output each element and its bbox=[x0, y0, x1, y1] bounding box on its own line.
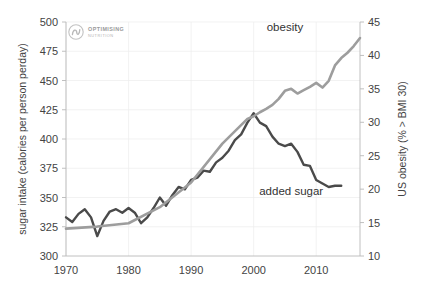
y2-axis-tick-label: 30 bbox=[368, 116, 380, 128]
y-axis-tick-label: 500 bbox=[40, 16, 58, 28]
logo-text-secondary: NUTRITION bbox=[88, 33, 114, 38]
y2-axis-tick-label: 35 bbox=[368, 83, 380, 95]
y2-axis-tick-label: 40 bbox=[368, 49, 380, 61]
y-axis-tick-label: 375 bbox=[40, 162, 58, 174]
logo-text-primary: OPTIMISING bbox=[88, 26, 124, 32]
x-axis-tick-label: 1970 bbox=[54, 264, 78, 276]
y-axis-tick-label: 350 bbox=[40, 192, 58, 204]
y2-axis-tick-label: 15 bbox=[368, 217, 380, 229]
series-label-added-sugar: added sugar bbox=[259, 185, 323, 197]
y2-axis-tick-label: 45 bbox=[368, 16, 380, 28]
x-axis-tick-label: 2000 bbox=[241, 264, 265, 276]
x-axis-tick-label: 2010 bbox=[304, 264, 328, 276]
y-axis-tick-label: 425 bbox=[40, 104, 58, 116]
x-axis-tick-label: 1990 bbox=[179, 264, 203, 276]
x-axis-tick-label: 1980 bbox=[116, 264, 140, 276]
y-axis-tick-label: 400 bbox=[40, 133, 58, 145]
y2-axis-title: US obesity (% > BMI 30) bbox=[396, 81, 408, 196]
y2-axis-tick-label: 20 bbox=[368, 183, 380, 195]
y-axis-title: sugar intake (calories per person perday… bbox=[16, 43, 28, 234]
y-axis-tick-label: 475 bbox=[40, 45, 58, 57]
chart-background bbox=[0, 0, 421, 293]
chart-container: 3003253503754004254504755001015202530354… bbox=[0, 0, 421, 293]
y-axis-tick-label: 325 bbox=[40, 221, 58, 233]
y-axis-tick-label: 300 bbox=[40, 250, 58, 262]
y2-axis-tick-label: 10 bbox=[368, 250, 380, 262]
y2-axis-tick-label: 25 bbox=[368, 150, 380, 162]
y-axis-tick-label: 450 bbox=[40, 75, 58, 87]
line-chart: 3003253503754004254504755001015202530354… bbox=[0, 0, 421, 293]
series-label-obesity: obesity bbox=[267, 21, 304, 33]
